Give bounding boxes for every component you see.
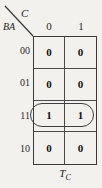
row-header-01: 01 <box>8 77 30 88</box>
function-subscript: C <box>65 173 70 182</box>
row-header-00: 00 <box>8 45 30 56</box>
kmap-grid: 0 0 0 0 1 1 0 0 <box>33 36 97 165</box>
kmap-cell-00-0: 0 <box>34 37 65 69</box>
kmap-cell-11-1: 1 <box>65 101 96 133</box>
column-variable-label: C <box>21 8 28 19</box>
karnaugh-map-figure: C BA 0 1 00 01 11 10 0 0 0 0 1 1 0 0 TC <box>0 0 102 188</box>
kmap-cell-01-1: 0 <box>65 69 96 101</box>
kmap-cell-11-0: 1 <box>34 101 65 133</box>
column-header-1: 1 <box>65 20 97 32</box>
kmap-cell-00-1: 0 <box>65 37 96 69</box>
function-label: TC <box>33 167 97 184</box>
row-header-11: 11 <box>8 110 30 121</box>
kmap-cell-01-0: 0 <box>34 69 65 101</box>
row-header-10: 10 <box>8 143 30 154</box>
kmap-cell-10-1: 0 <box>65 132 96 164</box>
kmap-cell-10-0: 0 <box>34 132 65 164</box>
row-variable-label: BA <box>3 21 15 32</box>
column-header-0: 0 <box>33 20 65 32</box>
